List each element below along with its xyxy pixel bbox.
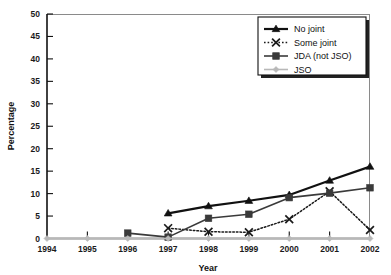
data-point <box>44 236 50 242</box>
y-axis: 05101520253035404550 <box>31 9 53 244</box>
data-point <box>327 236 333 242</box>
data-point <box>367 236 373 242</box>
y-axis-ticks <box>47 14 53 216</box>
y-tick-label: 30 <box>31 99 41 109</box>
data-point <box>246 236 252 242</box>
data-point <box>205 215 212 222</box>
x-axis: 199419951996199719981999200020012002 <box>38 232 380 254</box>
x-tick-label: 1995 <box>78 244 97 254</box>
y-tick-label: 40 <box>31 54 41 64</box>
y-tick-label: 0 <box>35 234 40 244</box>
data-point <box>285 215 293 223</box>
line-chart: 05101520253035404550 1994199519961997199… <box>0 0 391 275</box>
data-point <box>206 236 212 242</box>
data-point <box>367 184 374 191</box>
y-tick-label: 45 <box>31 31 41 41</box>
legend-label: No joint <box>294 24 325 34</box>
x-tick-label: 1994 <box>38 244 57 254</box>
data-point <box>286 194 293 201</box>
data-point <box>326 190 333 197</box>
x-tick-label: 2002 <box>361 244 380 254</box>
x-axis-tick-labels: 199419951996199719981999200020012002 <box>38 244 380 254</box>
data-point <box>84 236 90 242</box>
data-point <box>246 211 253 218</box>
y-tick-label: 10 <box>31 189 41 199</box>
x-tick-label: 1997 <box>159 244 178 254</box>
x-tick-label: 2000 <box>280 244 299 254</box>
series-jso <box>44 236 373 242</box>
chart-legend: No jointSome jointJDA (not JSO)JSO <box>258 17 369 78</box>
data-series-layer <box>44 163 374 242</box>
y-tick-label: 5 <box>35 211 40 221</box>
y-tick-label: 50 <box>31 9 41 19</box>
x-tick-label: 1999 <box>239 244 258 254</box>
legend-label: JSO <box>294 65 312 75</box>
y-tick-label: 15 <box>31 166 41 176</box>
y-axis-tick-labels: 05101520253035404550 <box>31 9 41 244</box>
legend-label: JDA (not JSO) <box>294 51 352 61</box>
x-axis-title: Year <box>198 263 218 273</box>
y-axis-title: Percentage <box>6 102 16 151</box>
legend-marker-swatch <box>273 53 280 60</box>
y-tick-label: 35 <box>31 76 41 86</box>
y-tick-label: 20 <box>31 144 41 154</box>
series-some-joint <box>164 187 374 236</box>
chart-container: 05101520253035404550 1994199519961997199… <box>0 0 391 275</box>
y-tick-label: 25 <box>31 121 41 131</box>
x-tick-label: 1998 <box>199 244 218 254</box>
data-point <box>366 163 374 170</box>
x-tick-label: 2001 <box>320 244 339 254</box>
series-no-joint <box>164 163 374 216</box>
legend-label: Some joint <box>294 38 337 48</box>
data-point <box>164 224 172 232</box>
x-tick-label: 1996 <box>118 244 137 254</box>
data-point <box>286 236 292 242</box>
